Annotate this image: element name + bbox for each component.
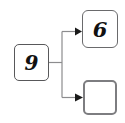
node-target-empty[interactable] bbox=[83, 80, 117, 115]
node-source-label: 9 bbox=[25, 52, 39, 72]
node-target-6[interactable]: 6 bbox=[82, 10, 118, 48]
node-target-top-label: 6 bbox=[93, 18, 108, 39]
diagram-canvas: 9 6 bbox=[0, 0, 125, 123]
node-source-9[interactable]: 9 bbox=[14, 44, 49, 81]
arrowhead-right-icon-top bbox=[75, 28, 82, 36]
arrowhead-right-icon-bottom bbox=[75, 94, 83, 102]
